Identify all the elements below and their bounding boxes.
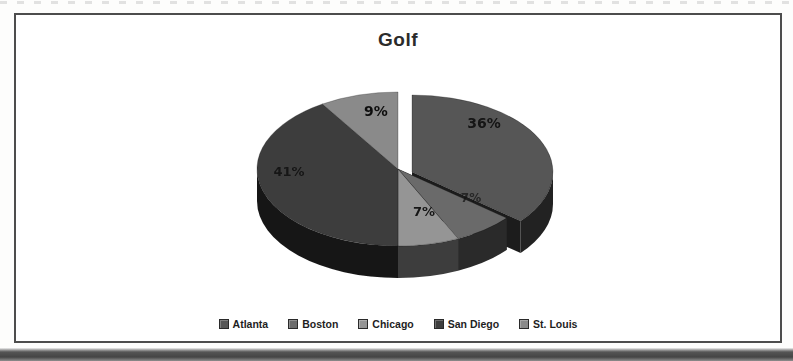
legend-swatch-icon bbox=[288, 319, 298, 329]
legend-label: Chicago bbox=[372, 318, 413, 330]
chart-frame: Golf AtlantaBostonChicagoSan DiegoSt. Lo… bbox=[14, 13, 782, 343]
chart-legend: AtlantaBostonChicagoSan DiegoSt. Louis bbox=[16, 318, 780, 330]
legend-swatch-icon bbox=[519, 319, 529, 329]
legend-label: San Diego bbox=[448, 318, 499, 330]
legend-item-san-diego: San Diego bbox=[434, 318, 499, 330]
legend-swatch-icon bbox=[358, 319, 368, 329]
chart-title: Golf bbox=[16, 29, 780, 51]
legend-item-boston: Boston bbox=[288, 318, 338, 330]
legend-item-atlanta: Atlanta bbox=[219, 318, 269, 330]
scanned-page: Golf AtlantaBostonChicagoSan DiegoSt. Lo… bbox=[0, 0, 793, 361]
scan-artifact-line bbox=[0, 1, 793, 4]
legend-item-st-louis: St. Louis bbox=[519, 318, 577, 330]
legend-label: Boston bbox=[302, 318, 338, 330]
legend-item-chicago: Chicago bbox=[358, 318, 413, 330]
legend-swatch-icon bbox=[434, 319, 444, 329]
page-bottom-bar bbox=[0, 348, 793, 361]
legend-label: Atlanta bbox=[233, 318, 269, 330]
legend-label: St. Louis bbox=[533, 318, 577, 330]
legend-swatch-icon bbox=[219, 319, 229, 329]
